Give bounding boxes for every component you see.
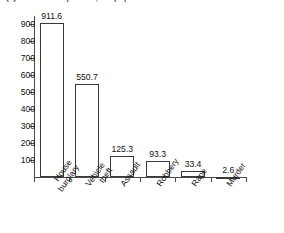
y-axis-tick-label: 800 bbox=[8, 37, 35, 46]
y-axis-tick-label-wrap: 900 bbox=[0, 20, 35, 29]
x-axis-tick bbox=[246, 177, 247, 182]
y-axis-tick-label-wrap: 400 bbox=[0, 105, 35, 114]
y-axis-tick-label: 700 bbox=[8, 54, 35, 63]
x-axis-tick bbox=[140, 177, 141, 182]
y-axis-tick-label: 600 bbox=[8, 71, 35, 80]
y-axis-tick-label-wrap: 300 bbox=[0, 122, 35, 131]
y-axis-tick-label-wrap: 200 bbox=[0, 139, 35, 148]
y-axis-tick-label: 200 bbox=[8, 139, 35, 148]
plot-area: 900800700600500400300200100 911.6550.712… bbox=[0, 0, 284, 233]
y-axis-tick-label-wrap: 500 bbox=[0, 88, 35, 97]
y-axis-tick-label: 500 bbox=[8, 88, 35, 97]
x-axis-tick bbox=[175, 177, 176, 182]
bar bbox=[40, 23, 64, 177]
bar-value-label: 911.6 bbox=[32, 12, 72, 21]
bar-value-label: 550.7 bbox=[67, 73, 107, 82]
y-axis-tick-label-wrap: 600 bbox=[0, 71, 35, 80]
bar-chart-figure: (a) Crime rates per 100,000 population 9… bbox=[0, 0, 284, 233]
bar-value-label: 125.3 bbox=[102, 145, 142, 154]
y-axis-tick-label-wrap: 700 bbox=[0, 54, 35, 63]
y-axis-tick-label: 900 bbox=[8, 20, 35, 29]
y-axis-tick-label-wrap: 800 bbox=[0, 37, 35, 46]
y-axis-tick-label-wrap: 100 bbox=[0, 156, 35, 165]
y-axis-tick-label: 100 bbox=[8, 156, 35, 165]
y-axis-tick-label: 400 bbox=[8, 105, 35, 114]
x-axis-tick bbox=[34, 177, 35, 182]
y-axis-tick-label: 300 bbox=[8, 122, 35, 131]
x-axis-tick bbox=[211, 177, 212, 182]
